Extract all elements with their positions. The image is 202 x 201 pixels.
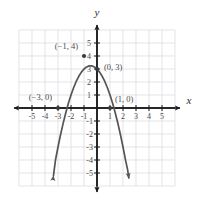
y-tick-label: 4	[87, 52, 91, 61]
x-intercept-left-label: (−3, 0)	[29, 92, 52, 102]
x-tick-label: -5	[29, 112, 36, 121]
x-tick-label: 3	[134, 112, 138, 121]
y-axis-label: y	[94, 6, 100, 18]
parabola-graph-figure: -5 -4 -3 -2 -1 1 2 3 4 5 5 4 3 2 1 -1 -2…	[0, 0, 202, 201]
y-tick-label: -4	[86, 156, 93, 165]
y-tick-label: -3	[86, 143, 93, 152]
y-tick-label: -5	[86, 169, 93, 178]
x-tick-label: 4	[147, 112, 151, 121]
coordinate-plane-svg: -5 -4 -3 -2 -1 1 2 3 4 5 5 4 3 2 1 -1 -2…	[0, 0, 202, 201]
x-tick-label: -2	[68, 112, 75, 121]
x-tick-label: -3	[55, 112, 62, 121]
x-intercept-right-point	[108, 106, 112, 110]
y-tick-label: -2	[86, 130, 93, 139]
x-tick-label: 5	[160, 112, 164, 121]
x-intercept-left-point	[56, 106, 60, 110]
y-tick-label: 5	[87, 39, 91, 48]
x-intercept-right-label: (1, 0)	[115, 94, 134, 104]
x-tick-label: -4	[42, 112, 49, 121]
y-tick-label: 2	[87, 78, 91, 87]
y-intercept-point	[95, 67, 99, 71]
vertex-point	[82, 54, 86, 58]
x-tick-label: 2	[121, 112, 125, 121]
y-tick-label: 1	[87, 91, 91, 100]
vertex-label: (−1, 4)	[55, 41, 78, 51]
y-intercept-label: (0, 3)	[104, 62, 123, 72]
x-axis-label: x	[186, 94, 192, 106]
y-tick-label: -1	[86, 117, 93, 126]
x-tick-label: 1	[108, 112, 112, 121]
